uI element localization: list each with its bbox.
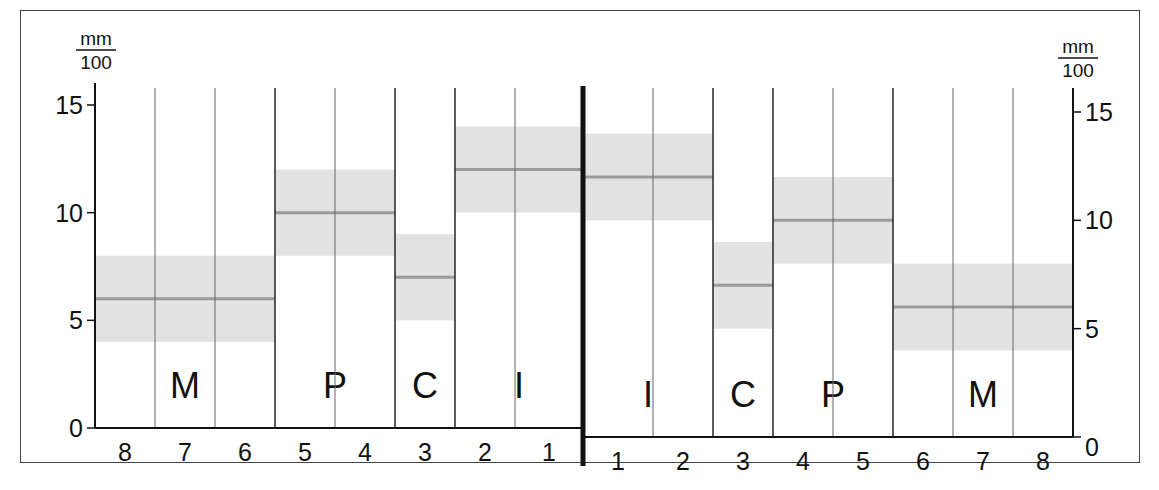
unit-denominator-right: 100 — [1062, 60, 1094, 81]
y-tick-label-left: 0 — [69, 414, 83, 442]
y-tick-label-left: 15 — [55, 91, 83, 119]
tooth-number-label: 4 — [358, 438, 372, 466]
y-tick-label-left: 5 — [69, 306, 83, 334]
unit-numerator-left: mm — [80, 28, 112, 49]
tooth-number-label: 3 — [418, 438, 432, 466]
group-label-right-M: M — [968, 374, 998, 415]
tooth-number-label: 5 — [298, 438, 312, 466]
tooth-number-label: 2 — [676, 447, 690, 475]
tooth-number-label: 7 — [178, 438, 192, 466]
unit-denominator-left: 100 — [80, 52, 112, 73]
tooth-number-label: 8 — [1036, 447, 1050, 475]
y-tick-label-left: 10 — [55, 199, 83, 227]
group-label-left-C: C — [412, 365, 438, 406]
group-label-right-I: I — [643, 374, 653, 415]
tooth-number-label: 3 — [736, 447, 750, 475]
tooth-number-label: 7 — [976, 447, 990, 475]
tooth-number-label: 5 — [856, 447, 870, 475]
tooth-number-label: 6 — [916, 447, 930, 475]
y-tick-label-right: 5 — [1085, 315, 1099, 343]
y-tick-label-right: 0 — [1085, 433, 1099, 461]
tooth-number-label: 6 — [238, 438, 252, 466]
tooth-number-label: 4 — [796, 447, 810, 475]
tooth-number-label: 2 — [478, 438, 492, 466]
tooth-mobility-chart: MPCI87654321ICPM12345678051015051015mm10… — [0, 0, 1159, 490]
tooth-number-label: 1 — [542, 438, 556, 466]
tooth-number-label: 1 — [611, 447, 625, 475]
group-label-left-M: M — [170, 365, 200, 406]
unit-numerator-right: mm — [1062, 36, 1094, 57]
tooth-number-label: 8 — [118, 438, 132, 466]
y-tick-label-right: 10 — [1085, 206, 1113, 234]
group-label-right-C: C — [730, 374, 756, 415]
y-tick-label-right: 15 — [1085, 98, 1113, 126]
